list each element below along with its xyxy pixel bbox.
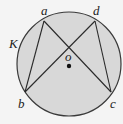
label-point-a: a (41, 3, 48, 18)
label-center-o: o (65, 49, 72, 64)
label-point-c: c (110, 96, 116, 111)
label-point-d: d (93, 3, 100, 18)
label-circle-k: K (8, 36, 19, 51)
label-point-b: b (18, 96, 25, 111)
center-point-o (67, 64, 71, 68)
circle-diagram: K o a d b c (0, 0, 123, 124)
